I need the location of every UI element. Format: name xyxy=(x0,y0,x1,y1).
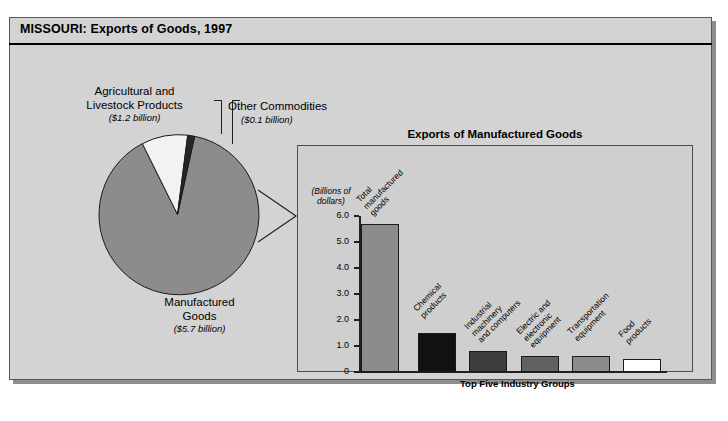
pie-label-agricultural: Agricultural and Livestock Products ($1.… xyxy=(47,85,222,124)
pie-label-agricultural-line1: Agricultural and xyxy=(47,85,222,99)
pie-svg xyxy=(95,132,260,297)
industry-groups-bracket-label: Top Five Industry Groups xyxy=(460,378,575,389)
pie-label-manufactured-value: ($5.7 billion) xyxy=(112,323,287,335)
pie-label-agricultural-line2: Livestock Products xyxy=(47,99,222,113)
bar-plot: 01.02.03.04.05.06.0 Totalmanufacturedgoo… xyxy=(297,145,693,372)
pie-chart xyxy=(95,132,260,297)
figure-root: MISSOURI: Exports of Goods, 1997 Agricul… xyxy=(0,0,728,421)
pie-label-agricultural-value: ($1.2 billion) xyxy=(47,112,222,124)
pie-label-other-line1: Other Commodities xyxy=(228,100,378,114)
page-title: MISSOURI: Exports of Goods, 1997 xyxy=(20,22,232,36)
bar-panel-title: Exports of Manufactured Goods xyxy=(297,128,693,140)
pie-label-manufactured-line1: Manufactured xyxy=(112,296,287,310)
pie-label-manufactured-line2: Goods xyxy=(112,310,287,324)
pie-label-other-value: ($0.1 billion) xyxy=(241,114,378,126)
industry-groups-bracket xyxy=(297,145,693,372)
pie-label-other-commodities: Other Commodities ($0.1 billion) xyxy=(228,100,378,126)
pie-label-manufactured: Manufactured Goods ($5.7 billion) xyxy=(112,296,287,335)
